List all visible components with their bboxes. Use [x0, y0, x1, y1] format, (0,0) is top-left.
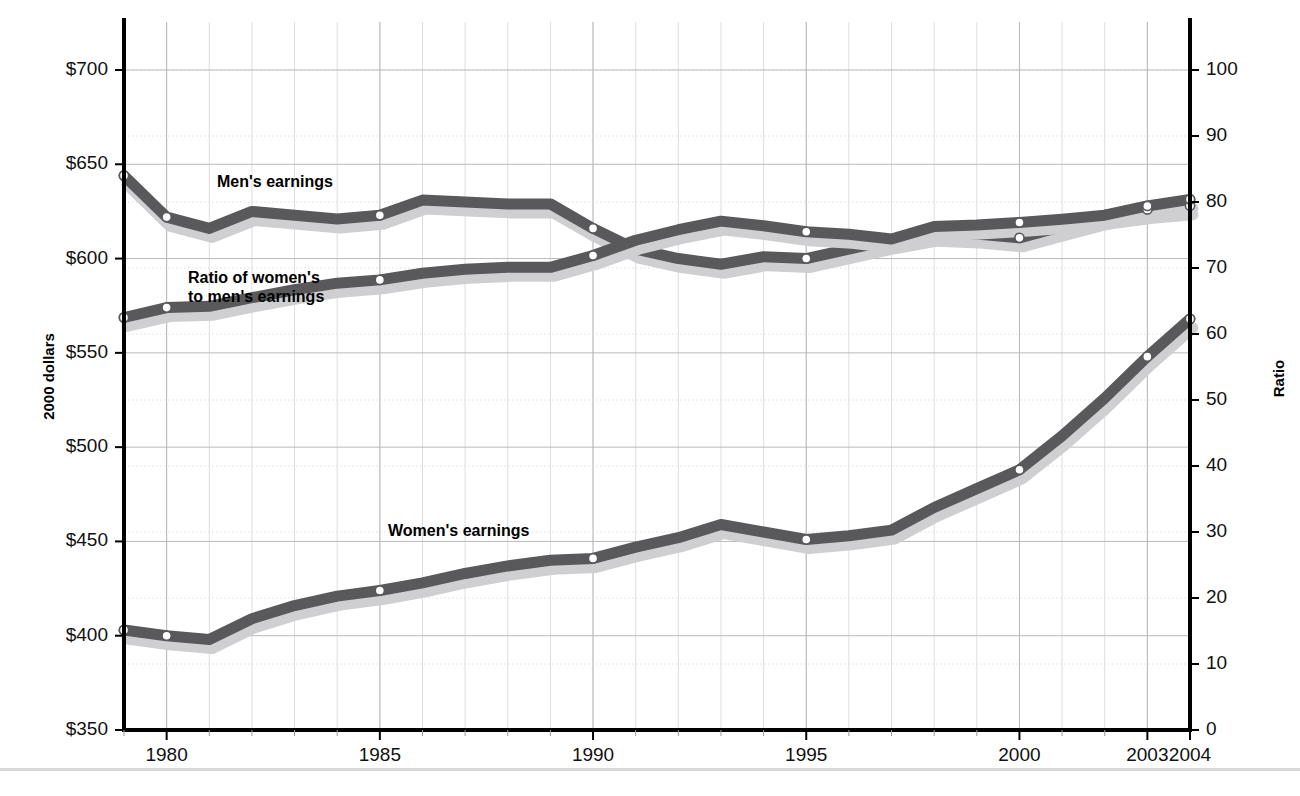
y-axis-right-tick-label: 40 [1206, 454, 1227, 476]
x-axis-tick-label: 2004 [1145, 744, 1235, 766]
data-point-marker [588, 251, 597, 260]
data-point-marker [1015, 218, 1024, 227]
series-annotation: Men's earnings [217, 172, 333, 192]
data-point-marker [1143, 352, 1152, 361]
y-axis-left-tick-label: $650 [0, 152, 108, 174]
y-axis-left-tick-label: $600 [0, 247, 108, 269]
y-axis-right-tick-label: 50 [1206, 388, 1227, 410]
x-axis-tick-label: 1985 [335, 744, 425, 766]
y-axis-right-tick-label: 60 [1206, 322, 1227, 344]
data-point-marker [162, 631, 171, 640]
y-axis-right-tick-label: 20 [1206, 586, 1227, 608]
data-point-marker [1143, 201, 1152, 210]
data-point-marker [802, 227, 811, 236]
series-annotation: to men's earnings [188, 287, 324, 307]
data-point-marker [1015, 233, 1024, 242]
y-axis-right-tick-label: 100 [1206, 58, 1238, 80]
data-point-marker [162, 303, 171, 312]
chart-canvas: 2000 dollars Ratio $350$400$450$500$550$… [0, 0, 1300, 796]
series-annotation: Ratio of women's [188, 268, 320, 288]
data-point-marker [375, 211, 384, 220]
data-point-marker [802, 254, 811, 263]
x-axis-tick-label: 1990 [548, 744, 638, 766]
y-axis-right-tick-label: 0 [1206, 718, 1217, 740]
x-axis-tick-label: 2000 [974, 744, 1064, 766]
y-axis-left-tick-label: $400 [0, 624, 108, 646]
y-axis-left-title: 2000 dollars [40, 307, 57, 447]
y-axis-left-tick-label: $350 [0, 718, 108, 740]
data-point-marker [588, 554, 597, 563]
data-point-marker [1015, 465, 1024, 474]
y-axis-left-tick-label: $700 [0, 58, 108, 80]
y-axis-left-tick-label: $500 [0, 435, 108, 457]
series-3 [124, 319, 1193, 649]
major-vertical-gridlines [167, 22, 1148, 730]
right-axis-gridlines [124, 70, 1190, 664]
y-axis-right-tick-label: 30 [1206, 520, 1227, 542]
tick-marks [115, 70, 1199, 740]
y-axis-right-title: Ratio [1270, 319, 1287, 439]
data-point-marker [162, 212, 171, 221]
x-axis-tick-label: 1995 [761, 744, 851, 766]
series-3-markers [119, 314, 1194, 640]
data-point-marker [375, 586, 384, 595]
minor-gridlines [167, 22, 1148, 730]
data-point-marker [588, 224, 597, 233]
data-point-marker [802, 535, 811, 544]
y-axis-right-tick-label: 90 [1206, 124, 1227, 146]
y-axis-right-tick-label: 10 [1206, 652, 1227, 674]
series-annotation: Women's earnings [388, 521, 529, 541]
data-point-marker [375, 275, 384, 284]
series-shadow [127, 328, 1193, 649]
y-axis-right-tick-label: 80 [1206, 190, 1227, 212]
footer-divider [0, 768, 1300, 771]
earnings-line-chart [0, 0, 1300, 796]
y-axis-right-tick-label: 70 [1206, 256, 1227, 278]
y-axis-left-tick-label: $450 [0, 529, 108, 551]
y-axis-left-tick-label: $550 [0, 341, 108, 363]
x-axis-tick-label: 1980 [122, 744, 212, 766]
